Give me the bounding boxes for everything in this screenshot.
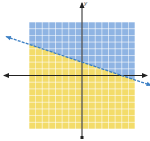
y-axis-label: y (84, 0, 87, 6)
inequality-graph (0, 0, 150, 141)
